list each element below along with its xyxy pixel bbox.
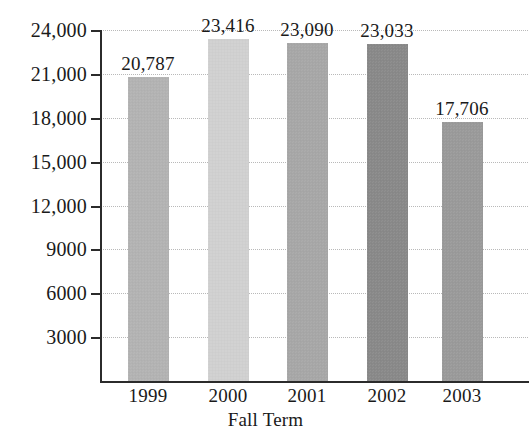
y-tick-label-6000: 6000: [46, 283, 87, 303]
y-tickmark-24000: [91, 30, 100, 32]
bar-texture: [208, 39, 249, 382]
y-tickmark-15000: [91, 162, 100, 164]
bar-texture: [128, 77, 169, 381]
x-axis-line: [100, 381, 529, 383]
y-tick-label-12000: 12,000: [31, 196, 87, 216]
bar-value-label-2002: 23,033: [360, 21, 413, 40]
bar-value-label-2001: 23,090: [280, 20, 333, 39]
bar-value-label-1999: 20,787: [121, 54, 174, 73]
y-tickmark-12000: [91, 206, 100, 208]
bar-texture: [287, 43, 328, 381]
y-axis-line: [100, 30, 102, 382]
y-tickmark-3000: [91, 337, 100, 339]
x-tick-label-2001: 2001: [288, 386, 327, 405]
bar-texture: [442, 122, 483, 381]
y-tickmark-18000: [91, 118, 100, 120]
y-tickmark-21000: [91, 74, 100, 76]
bar-2001: 23,090: [287, 43, 328, 381]
bar-1999: 20,787: [128, 77, 169, 381]
bar-chart: 24,000 21,000 18,000 15,000 12,000 9000 …: [0, 0, 531, 434]
plot-area: 24,000 21,000 18,000 15,000 12,000 9000 …: [100, 30, 528, 381]
y-tickmark-6000: [91, 293, 100, 295]
bar-2003: 17,706: [442, 122, 483, 381]
x-tick-label-2000: 2000: [209, 386, 248, 405]
bar-value-label-2003: 17,706: [435, 99, 488, 118]
bar-value-label-2000: 23,416: [201, 16, 254, 35]
y-tick-label-15000: 15,000: [31, 152, 87, 172]
x-axis-title: Fall Term: [0, 410, 531, 429]
bar-2000: 23,416: [208, 39, 249, 382]
y-tick-label-21000: 21,000: [31, 64, 87, 84]
y-tickmark-9000: [91, 249, 100, 251]
y-tick-label-24000: 24,000: [31, 20, 87, 40]
y-tick-label-3000: 3000: [46, 327, 87, 347]
x-tick-label-2003: 2003: [443, 386, 482, 405]
bar-texture: [367, 44, 408, 381]
x-tick-label-1999: 1999: [129, 386, 168, 405]
bar-2002: 23,033: [367, 44, 408, 381]
y-tick-label-18000: 18,000: [31, 108, 87, 128]
y-tick-label-9000: 9000: [46, 239, 87, 259]
x-tick-label-2002: 2002: [368, 386, 407, 405]
